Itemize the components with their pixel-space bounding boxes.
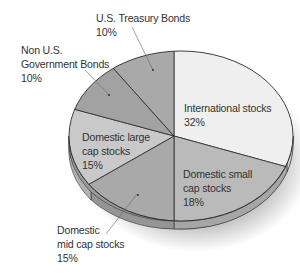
label-international-name: International stocks: [184, 101, 271, 115]
label-domestic-mid-line2: mid cap stocks: [57, 237, 124, 251]
label-domestic-mid-cap: Domestic mid cap stocks 15%: [57, 223, 124, 265]
label-us-treasury-name: U.S. Treasury Bonds: [96, 11, 190, 25]
label-domestic-mid-pct: 15%: [57, 251, 124, 265]
label-domestic-small-line2: cap stocks: [183, 181, 252, 195]
marker-us-treasury: [152, 69, 154, 71]
label-non-us-pct: 10%: [21, 71, 109, 85]
label-domestic-small-pct: 18%: [183, 195, 252, 209]
label-international-pct: 32%: [184, 115, 271, 129]
marker-domestic-mid: [137, 194, 139, 196]
label-us-treasury-pct: 10%: [96, 25, 190, 39]
label-domestic-mid-line1: Domestic: [57, 223, 124, 237]
label-domestic-small-cap: Domestic small cap stocks 18%: [183, 167, 252, 209]
label-us-treasury-bonds: U.S. Treasury Bonds 10%: [96, 11, 190, 39]
marker-non-us-bonds: [108, 94, 110, 96]
pie-chart: [0, 0, 300, 273]
label-domestic-large-cap: Domestic large cap stocks 15%: [82, 130, 150, 172]
label-non-us-line1: Non U.S.: [21, 43, 109, 57]
label-domestic-large-line2: cap stocks: [82, 144, 150, 158]
label-international-stocks: International stocks 32%: [184, 101, 271, 129]
label-domestic-large-line1: Domestic large: [82, 130, 150, 144]
label-domestic-large-pct: 15%: [82, 158, 150, 172]
label-non-us-line2: Government Bonds: [21, 57, 109, 71]
label-non-us-government-bonds: Non U.S. Government Bonds 10%: [21, 43, 109, 85]
label-domestic-small-line1: Domestic small: [183, 167, 252, 181]
